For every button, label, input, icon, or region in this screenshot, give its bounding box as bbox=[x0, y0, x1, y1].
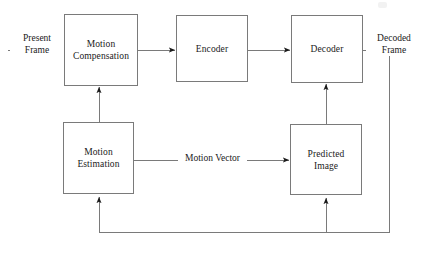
node-encoder[interactable]: Encoder bbox=[176, 15, 248, 82]
node-predicted-image-label: Predicted Image bbox=[306, 148, 347, 172]
node-predicted-image[interactable]: Predicted Image bbox=[290, 124, 362, 195]
diagram-canvas: Motion Compensation Encoder Decoder Moti… bbox=[0, 0, 425, 256]
node-decoder[interactable]: Decoder bbox=[291, 15, 363, 83]
node-encoder-label: Encoder bbox=[194, 43, 230, 55]
node-motion-compensation-label: Motion Compensation bbox=[71, 38, 131, 62]
node-motion-estimation-label: Motion Estimation bbox=[75, 146, 121, 170]
edge-label-decoded-frame: Decoded Frame bbox=[366, 33, 422, 56]
node-motion-estimation[interactable]: Motion Estimation bbox=[63, 122, 134, 194]
node-motion-compensation[interactable]: Motion Compensation bbox=[64, 14, 138, 86]
node-decoder-label: Decoder bbox=[309, 43, 346, 55]
edge-label-present-frame: Present Frame bbox=[10, 33, 64, 56]
edge-label-motion-vector: Motion Vector bbox=[178, 153, 247, 165]
